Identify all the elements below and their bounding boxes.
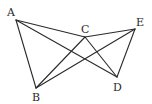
point-label-a: A [6,6,16,19]
segment-ac [16,20,85,37]
point-label-e: E [136,16,144,29]
geometry-figure: A B C D E [0,0,152,104]
point-label-b: B [32,91,40,104]
segment-ed [117,29,135,77]
point-label-c: C [81,23,89,36]
segments-group [16,20,135,88]
point-label-d: D [113,81,122,94]
